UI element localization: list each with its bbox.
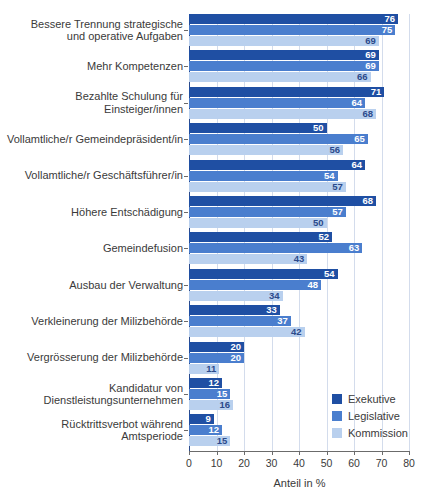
legend-label: Kommission [348, 427, 408, 439]
bar-value-label: 43 [294, 253, 308, 264]
bar-row: 75 [189, 25, 409, 35]
x-tick-mark [354, 451, 355, 455]
bar-value-label: 64 [351, 159, 365, 170]
x-tick-mark [244, 451, 245, 455]
horizontal-bar-chart: 7675696969667164685065566454576857505263… [0, 0, 428, 499]
category-tick [184, 212, 188, 213]
bar-legislative[interactable] [189, 280, 321, 290]
bar-legislative[interactable] [189, 61, 379, 71]
category-label-line: Kandidatur von [0, 382, 183, 395]
category-label-line: Vollamtliche/r Gemeindepräsident/in [0, 133, 183, 146]
legend-item[interactable]: Legislative [332, 408, 408, 423]
category-tick [184, 176, 188, 177]
bar-row: 66 [189, 72, 409, 82]
bar-exekutive[interactable] [189, 269, 338, 279]
bar-value-label: 37 [277, 315, 291, 326]
bar-row: 43 [189, 254, 409, 264]
category-label: Vollamtliche/r Gemeindepräsident/in [0, 133, 183, 146]
bar-exekutive[interactable] [189, 50, 379, 60]
bar-row: 54 [189, 171, 409, 181]
bar-row: 69 [189, 36, 409, 46]
bar-group: 506556 [189, 123, 409, 156]
bar-row: 50 [189, 218, 409, 228]
bar-value-label: 42 [291, 326, 305, 337]
bar-value-label: 20 [230, 352, 244, 363]
bar-value-label: 54 [324, 268, 338, 279]
bar-group: 544834 [189, 269, 409, 302]
bar-kommission[interactable] [189, 36, 379, 46]
bar-value-label: 11 [206, 363, 219, 374]
bar-row: 69 [189, 50, 409, 60]
category-tick [184, 30, 188, 31]
bar-value-label: 16 [219, 399, 233, 410]
category-label-line: Dienstleistungsunternehmen [0, 394, 183, 407]
bar-exekutive[interactable] [189, 232, 332, 242]
bar-legislative[interactable] [189, 134, 368, 144]
bar-kommission[interactable] [189, 109, 376, 119]
bar-legislative[interactable] [189, 207, 346, 217]
bar-row: 34 [189, 291, 409, 301]
bar-exekutive[interactable] [189, 14, 398, 24]
bar-value-label: 52 [318, 231, 332, 242]
bar-legislative[interactable] [189, 316, 291, 326]
category-label-line: Gemeindefusion [0, 242, 183, 255]
category-label: Mehr Kompetenzen [0, 60, 183, 73]
bar-value-label: 48 [307, 279, 321, 290]
bar-row: 52 [189, 232, 409, 242]
category-label-line: Ausbau der Verwaltung [0, 279, 183, 292]
bar-legislative[interactable] [189, 25, 395, 35]
bar-row: 68 [189, 196, 409, 206]
bar-value-label: 76 [384, 13, 398, 24]
bar-kommission[interactable] [189, 327, 305, 337]
category-label: Rücktrittsverbot währendAmtsperiode [0, 418, 183, 443]
bar-row: 37 [189, 316, 409, 326]
bar-group: 685750 [189, 196, 409, 229]
legend-item[interactable]: Exekutive [332, 391, 408, 406]
legend-item[interactable]: Kommission [332, 425, 408, 440]
bar-value-label: 56 [329, 144, 343, 155]
category-tick [184, 66, 188, 67]
category-label: Bessere Trennung strategischeund operati… [0, 18, 183, 43]
x-axis-title: Anteil in % [189, 477, 410, 489]
x-tick-label: 0 [186, 457, 192, 469]
category-label-line: Vollamtliche/r Geschäftsführer/in [0, 169, 183, 182]
category-label-line: Einsteiger/innen [0, 103, 183, 116]
bar-value-label: 33 [266, 304, 280, 315]
legend-swatch-icon [332, 394, 342, 404]
bar-group: 645457 [189, 160, 409, 193]
gridline-80 [409, 14, 410, 451]
bar-row: 48 [189, 280, 409, 290]
bar-group: 767569 [189, 14, 409, 47]
bar-value-label: 68 [362, 108, 376, 119]
bar-exekutive[interactable] [189, 196, 376, 206]
bar-value-label: 12 [208, 377, 222, 388]
bar-kommission[interactable] [189, 218, 327, 228]
bar-exekutive[interactable] [189, 160, 365, 170]
x-tick-mark [382, 451, 383, 455]
bar-exekutive[interactable] [189, 123, 327, 133]
bar-legislative[interactable] [189, 171, 338, 181]
bar-legislative[interactable] [189, 98, 365, 108]
bar-row: 20 [189, 353, 409, 363]
category-label-line: Vergrösserung der Milizbehörde [0, 351, 183, 364]
bar-row: 57 [189, 182, 409, 192]
bar-row: 11 [189, 364, 409, 374]
legend-label: Exekutive [348, 393, 396, 405]
bar-legislative[interactable] [189, 243, 362, 253]
bar-kommission[interactable] [189, 72, 371, 82]
bar-value-label: 71 [371, 86, 385, 97]
bar-row: 54 [189, 269, 409, 279]
legend-label: Legislative [348, 410, 400, 422]
bar-kommission[interactable] [189, 145, 343, 155]
x-tick-mark [299, 451, 300, 455]
bar-kommission[interactable] [189, 254, 307, 264]
bar-kommission[interactable] [189, 182, 346, 192]
category-tick [184, 321, 188, 322]
bar-exekutive[interactable] [189, 87, 384, 97]
category-label-line: und operative Aufgaben [0, 30, 183, 43]
x-tick-mark [327, 451, 328, 455]
category-label-line: Mehr Kompetenzen [0, 60, 183, 73]
category-label: Vollamtliche/r Geschäftsführer/in [0, 169, 183, 182]
category-tick [184, 103, 188, 104]
plot-area: 7675696969667164685065566454576857505263… [189, 14, 409, 451]
